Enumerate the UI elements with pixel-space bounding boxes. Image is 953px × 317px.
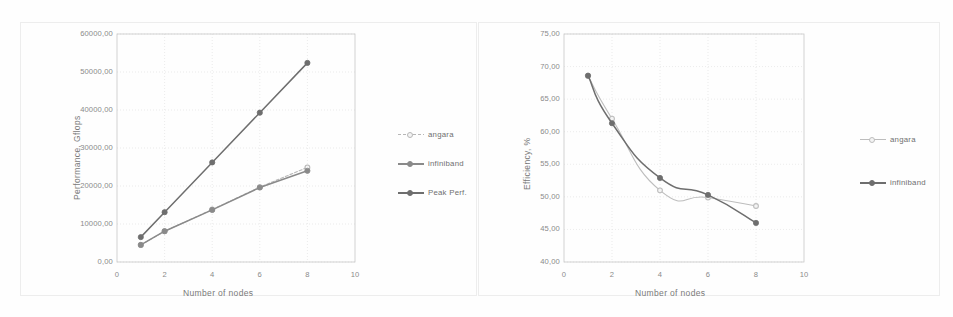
y-tick-label: 45,00 [508,224,560,233]
legend-label: infiniband [890,178,926,187]
y-tick-label: 65,00 [508,94,560,103]
y-tick-label: 20000,00 [61,181,113,190]
legend-item[interactable]: infiniband [860,176,926,189]
figure-canvas: Performance, Gflops Number of nodes 0,00… [0,0,953,317]
legend-swatch-icon [860,178,886,188]
x-tick-label: 10 [789,270,819,279]
efficiency-legend: angarainfiniband [860,133,926,219]
y-tick-label: 40000,00 [61,105,113,114]
y-tick-label: 55,00 [508,159,560,168]
x-tick-label: 8 [741,270,771,279]
x-tick-label: 8 [292,270,322,279]
legend-item[interactable]: angara [398,128,467,141]
x-tick-label: 6 [245,270,275,279]
legend-swatch-icon [398,159,424,169]
legend-label: angara [890,135,916,144]
performance-x-axis-title: Number of nodes [183,288,253,298]
x-tick-label: 4 [197,270,227,279]
legend-label: Peak Perf. [428,188,467,197]
performance-legend: angarainfinibandPeak Perf. [398,128,467,215]
y-tick-label: 10000,00 [61,219,113,228]
x-tick-label: 0 [549,270,579,279]
y-tick-label: 70,00 [508,62,560,71]
efficiency-chart: Efficiency, % Number of nodes 40,0045,00… [478,0,953,317]
legend-swatch-icon [398,188,424,198]
y-tick-label: 30000,00 [61,143,113,152]
performance-chart: Performance, Gflops Number of nodes 0,00… [0,0,478,317]
y-tick-label: 50000,00 [61,67,113,76]
x-tick-label: 4 [645,270,675,279]
legend-item[interactable]: Peak Perf. [398,186,467,199]
legend-label: angara [428,130,454,139]
legend-item[interactable]: infiniband [398,157,467,170]
efficiency-x-axis-title: Number of nodes [635,288,705,298]
legend-swatch-icon [860,135,886,145]
y-tick-label: 0,00 [61,257,113,266]
x-tick-label: 2 [150,270,180,279]
y-tick-label: 60,00 [508,127,560,136]
x-tick-label: 6 [693,270,723,279]
legend-swatch-icon [398,130,424,140]
x-tick-label: 10 [340,270,370,279]
legend-label: infiniband [428,159,464,168]
y-tick-label: 75,00 [508,29,560,38]
legend-item[interactable]: angara [860,133,926,146]
y-tick-label: 40,00 [508,257,560,266]
x-tick-label: 2 [597,270,627,279]
x-tick-label: 0 [102,270,132,279]
y-tick-label: 60000,00 [61,29,113,38]
y-tick-label: 50,00 [508,192,560,201]
